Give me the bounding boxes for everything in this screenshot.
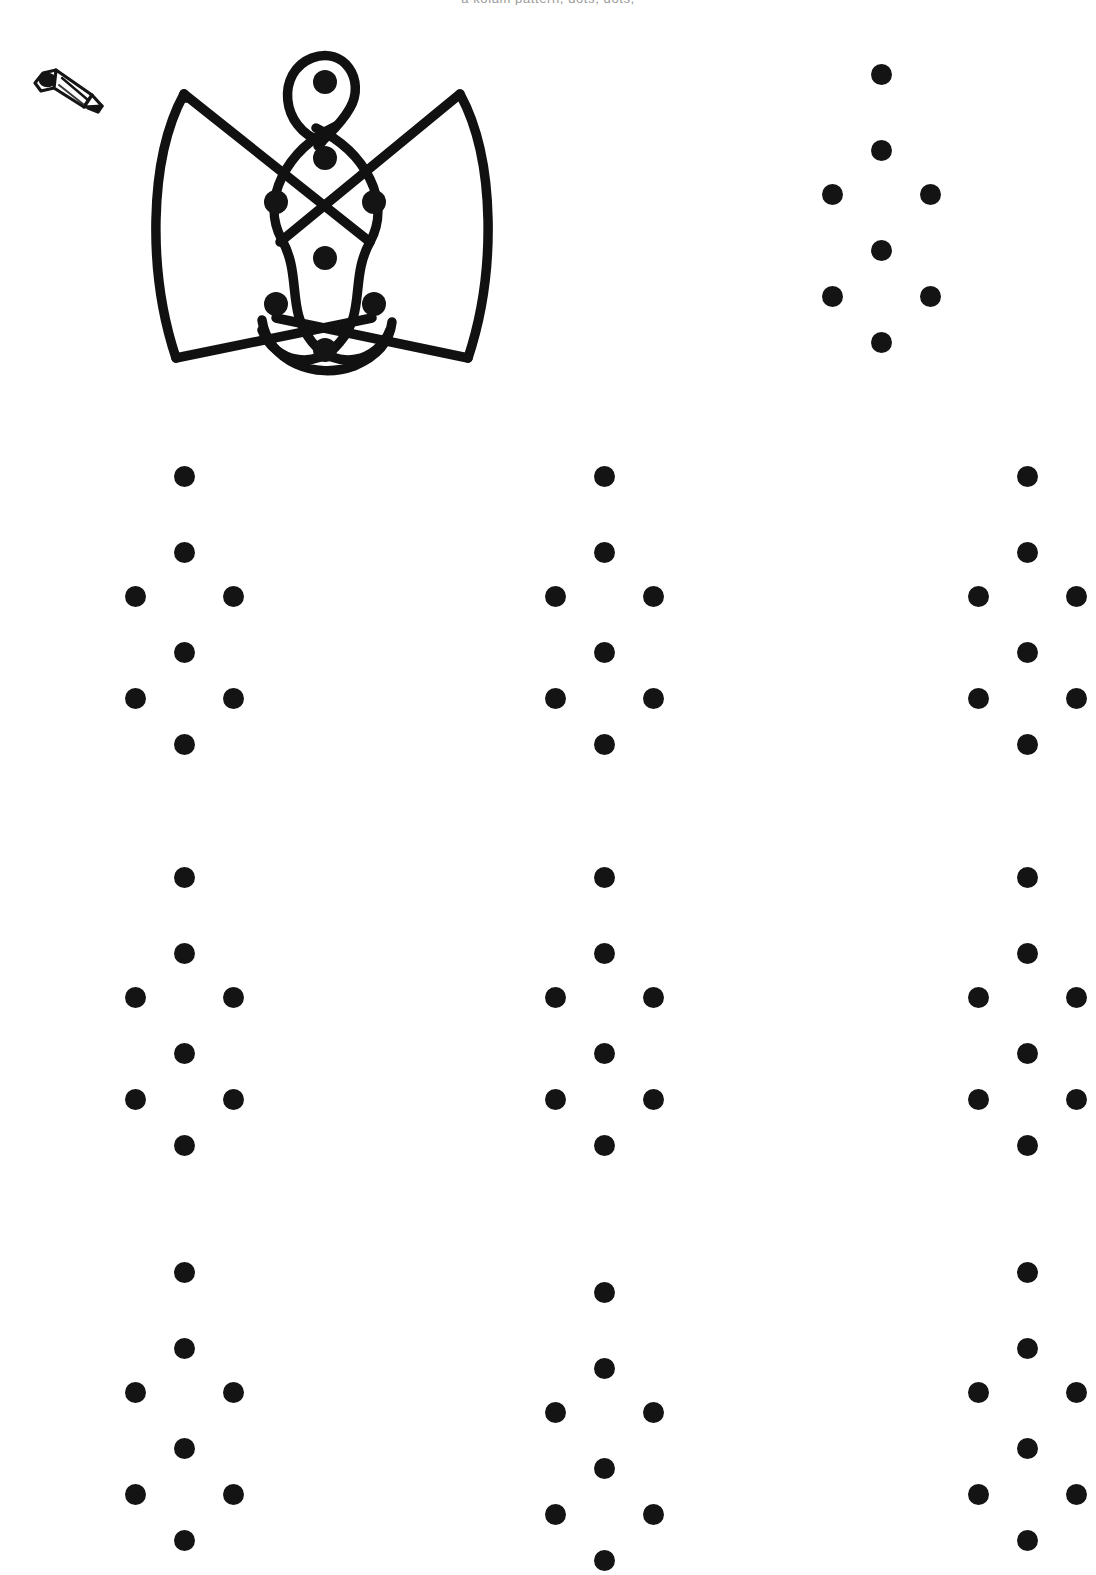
grid-dot-lower-right	[643, 688, 664, 709]
grid-dot-upper-right	[1066, 586, 1087, 607]
grid-dot-upper-left	[968, 1382, 989, 1403]
grid-dot-upper-right	[223, 1382, 244, 1403]
practice-grid-8[interactable]	[528, 1278, 680, 1575]
grid-dot-upper-centre	[1017, 943, 1038, 964]
practice-grid-3[interactable]	[951, 462, 1096, 762]
grid-dot-lower-right	[223, 1089, 244, 1110]
grid-dot-upper-left	[545, 586, 566, 607]
grid-dot-bottom	[174, 734, 195, 755]
grid-dot-bottom	[594, 734, 615, 755]
grid-dot-top	[174, 466, 195, 487]
grid-dot-upper-right	[223, 586, 244, 607]
grid-dot-upper-centre	[594, 542, 615, 563]
grid-dot-bottom	[1017, 734, 1038, 755]
practice-grid-7[interactable]	[108, 1258, 260, 1558]
grid-dot-upper-left	[822, 184, 843, 205]
grid-dot-lower-centre	[1017, 1043, 1038, 1064]
pencil-icon	[26, 54, 114, 126]
grid-dot-upper-left	[125, 586, 146, 607]
grid-dot-upper-left	[968, 987, 989, 1008]
reference-grid[interactable]	[805, 60, 957, 360]
grid-dot-lower-left	[545, 1089, 566, 1110]
grid-dot-bottom	[594, 1550, 615, 1571]
grid-dot-top	[174, 1262, 195, 1283]
grid-dot-lower-centre	[1017, 642, 1038, 663]
grid-dot-upper-centre	[1017, 542, 1038, 563]
practice-grid-9[interactable]	[951, 1258, 1096, 1558]
grid-dot-upper-left	[968, 586, 989, 607]
grid-dot-bottom	[1017, 1530, 1038, 1551]
grid-dot-bottom	[174, 1530, 195, 1551]
grid-dot-top	[594, 1282, 615, 1303]
grid-dot-lower-left	[968, 688, 989, 709]
grid-dot-top	[594, 867, 615, 888]
grid-dot-lower-centre	[174, 1438, 195, 1459]
grid-dot-lower-right	[223, 1484, 244, 1505]
grid-dot-upper-right	[643, 987, 664, 1008]
grid-dot-lower-right	[643, 1089, 664, 1110]
grid-dot-lower-centre	[174, 1043, 195, 1064]
grid-dot-lower-left	[125, 1484, 146, 1505]
grid-dot-upper-right	[643, 586, 664, 607]
grid-dot-upper-right	[920, 184, 941, 205]
clipped-heading-text: a kolam pattern, dots, dots,	[0, 0, 1096, 5]
grid-dot-upper-left	[545, 987, 566, 1008]
grid-dot-top	[1017, 466, 1038, 487]
grid-dot-upper-centre	[594, 943, 615, 964]
grid-dot-lower-left	[125, 688, 146, 709]
grid-dot-lower-left	[822, 286, 843, 307]
grid-dot-upper-centre	[1017, 1338, 1038, 1359]
grid-dot-lower-right	[643, 1504, 664, 1525]
grid-dot-bottom	[174, 1135, 195, 1156]
grid-dot-upper-left	[125, 1382, 146, 1403]
grid-dot-upper-centre	[174, 542, 195, 563]
grid-dot-upper-centre	[174, 943, 195, 964]
grid-dot-lower-left	[968, 1484, 989, 1505]
grid-dot-lower-right	[1066, 1484, 1087, 1505]
grid-dot-upper-right	[1066, 987, 1087, 1008]
practice-grid-5[interactable]	[528, 863, 680, 1163]
grid-dot-lower-centre	[174, 642, 195, 663]
grid-dot-upper-right	[223, 987, 244, 1008]
grid-dot-upper-right	[1066, 1382, 1087, 1403]
grid-dot-lower-centre	[594, 642, 615, 663]
kolam-design-illustration	[140, 24, 512, 384]
grid-dot-lower-right	[920, 286, 941, 307]
grid-dot-upper-right	[643, 1402, 664, 1423]
grid-dot-lower-right	[1066, 688, 1087, 709]
grid-dot-top	[594, 466, 615, 487]
grid-dot-top	[174, 867, 195, 888]
grid-dot-lower-left	[968, 1089, 989, 1110]
grid-dot-lower-right	[223, 688, 244, 709]
practice-grid-2[interactable]	[528, 462, 680, 762]
practice-grid-6[interactable]	[951, 863, 1096, 1163]
grid-dot-lower-left	[545, 688, 566, 709]
grid-dot-lower-centre	[1017, 1438, 1038, 1459]
grid-dot-lower-centre	[594, 1458, 615, 1479]
grid-dot-upper-centre	[871, 140, 892, 161]
grid-dot-lower-centre	[871, 240, 892, 261]
practice-grid-1[interactable]	[108, 462, 260, 762]
grid-dot-bottom	[871, 332, 892, 353]
grid-dot-upper-centre	[594, 1358, 615, 1379]
grid-dot-top	[871, 64, 892, 85]
practice-grid-4[interactable]	[108, 863, 260, 1163]
grid-dot-top	[1017, 1262, 1038, 1283]
grid-dot-lower-left	[545, 1504, 566, 1525]
grid-dot-lower-left	[125, 1089, 146, 1110]
grid-dot-bottom	[594, 1135, 615, 1156]
grid-dot-bottom	[1017, 1135, 1038, 1156]
grid-dot-lower-right	[1066, 1089, 1087, 1110]
grid-dot-upper-left	[125, 987, 146, 1008]
grid-dot-lower-centre	[594, 1043, 615, 1064]
grid-dot-top	[1017, 867, 1038, 888]
grid-dot-upper-centre	[174, 1338, 195, 1359]
grid-dot-upper-left	[545, 1402, 566, 1423]
